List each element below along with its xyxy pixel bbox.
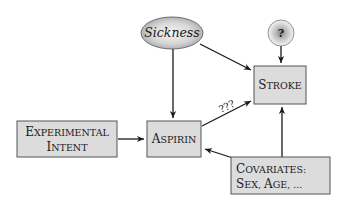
causal-diagram: ??? Sickness ? STROKE ASPIRIN EXPERIMENT… (0, 0, 347, 202)
node-covariates-label-line2: SEX, AGE, ... (236, 177, 302, 191)
node-experimental-intent: EXPERIMENTAL INTENT (17, 121, 117, 157)
node-covariates-label-line1: COVARIATES: (236, 162, 306, 176)
node-aspirin-label: ASPIRIN (151, 132, 197, 146)
node-stroke: STROKE (254, 66, 306, 104)
node-sickness: Sickness (141, 17, 203, 49)
node-unknown: ? (268, 20, 294, 46)
node-intent-label-line2: INTENT (47, 140, 89, 154)
node-intent-label-line1: EXPERIMENTAL (25, 125, 109, 139)
node-stroke-label: STROKE (258, 78, 302, 92)
node-aspirin: ASPIRIN (147, 121, 201, 157)
node-sickness-label: Sickness (144, 25, 199, 40)
edge-sickness-to-stroke (200, 44, 251, 70)
question-mark-icon: ? (278, 27, 284, 40)
edge-label-aspirin-stroke: ??? (217, 98, 236, 115)
node-covariates: COVARIATES: SEX, AGE, ... (231, 157, 330, 194)
